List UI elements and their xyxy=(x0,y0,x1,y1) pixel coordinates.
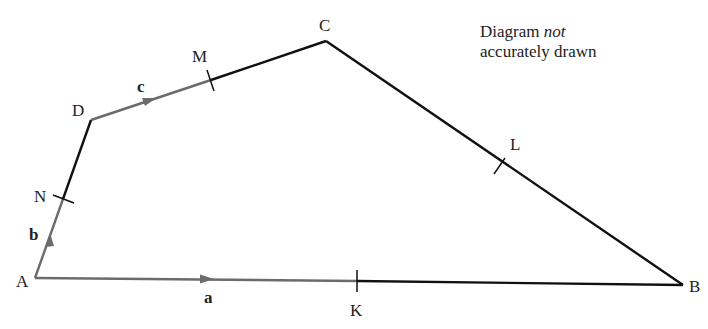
edge-ND xyxy=(63,120,91,199)
vector-label-a: a xyxy=(204,289,213,306)
quadrilateral-diagram: ... in the quadrilateral ... A B C D K L… xyxy=(0,0,708,329)
arrow-a-icon xyxy=(200,275,214,284)
edge-CB xyxy=(326,41,683,285)
arrow-c-icon xyxy=(142,98,156,106)
label-A: A xyxy=(16,273,28,290)
note-line-1: Diagram not xyxy=(480,22,597,42)
label-K: K xyxy=(350,302,362,319)
vector-label-b: b xyxy=(29,226,38,243)
edge-MC xyxy=(211,41,326,80)
diagram-canvas xyxy=(0,0,708,329)
vector-label-c: c xyxy=(137,78,145,95)
label-M: M xyxy=(192,48,207,65)
header-fragment: ... in the quadrilateral ... xyxy=(40,0,202,10)
note-prefix: Diagram xyxy=(480,22,544,41)
edge-KB xyxy=(357,281,683,285)
arrow-b-icon xyxy=(45,233,54,247)
note-line-2: accurately drawn xyxy=(480,42,597,62)
label-L: L xyxy=(510,136,520,153)
label-B: B xyxy=(689,278,700,295)
vector-a-segment xyxy=(35,278,357,281)
note-italic: not xyxy=(544,22,566,41)
label-D: D xyxy=(72,102,84,119)
diagram-note: Diagram not accurately drawn xyxy=(480,22,597,62)
label-C: C xyxy=(319,17,330,34)
label-N: N xyxy=(34,188,46,205)
